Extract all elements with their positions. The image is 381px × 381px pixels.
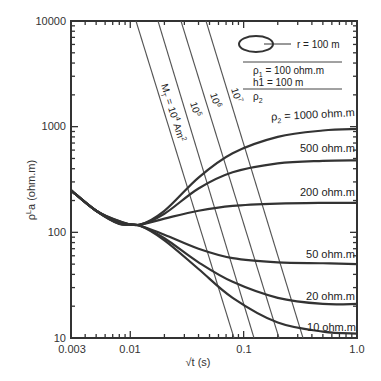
y-tick-100: 100 xyxy=(48,226,66,238)
curve-label-50: 50 ohm.m xyxy=(306,248,355,260)
y-axis-title: ρLa (ohm.m) xyxy=(25,160,37,220)
moment-line-1e4 xyxy=(136,21,234,338)
resistivity-curves xyxy=(71,129,357,334)
curve-label-500: 500 ohm.m xyxy=(300,142,355,154)
moment-line-1e5 xyxy=(158,21,254,338)
curve-label-200: 200 ohm.m xyxy=(300,186,355,198)
curve-rho2-210 xyxy=(71,190,357,333)
resistivity-chart: 10 100 1000 10000 0.003 0.01 0.1 1.0 √t … xyxy=(0,0,381,381)
moment-label-1e6: 106 xyxy=(208,91,224,109)
x-tick-0.1: 0.1 xyxy=(236,343,251,355)
curve-label-10: 10 ohm.m xyxy=(307,321,356,333)
curve-label-1000: ρ2 = 1000 ohm.m xyxy=(271,106,355,124)
x-tick-0.01: 0.01 xyxy=(119,343,140,355)
y-tick-10000: 10000 xyxy=(35,15,66,27)
x-tick-0.003: 0.003 xyxy=(58,343,86,355)
h1-label: h1 = 100 m xyxy=(253,77,303,88)
moment-label-1e4: MT = 104 Am2 xyxy=(157,82,188,144)
curve-label-20: 20 ohm.m xyxy=(306,290,355,302)
loop-radius-label: r = 100 m xyxy=(297,39,340,50)
rho2-label: ρ2 xyxy=(253,91,263,104)
moment-label-1e7: 107 xyxy=(229,86,245,104)
x-axis-title: √t (s) xyxy=(186,356,211,368)
y-tick-1000: 1000 xyxy=(42,120,66,132)
x-tick-1.0: 1.0 xyxy=(349,343,364,355)
moment-label-1e5: 105 xyxy=(188,100,204,118)
model-legend: r = 100 m ρ1 = 100 ohm.m h1 = 100 m ρ2 xyxy=(239,36,342,104)
